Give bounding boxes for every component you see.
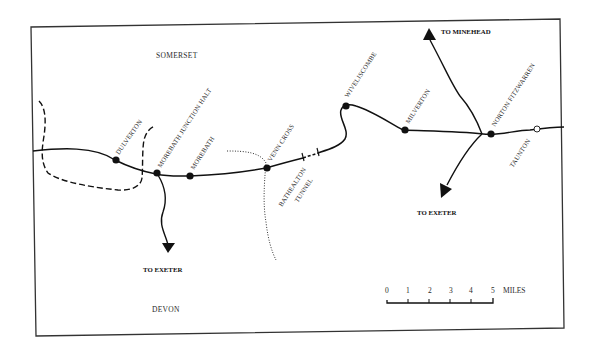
scale-tick-3: 3 [449,286,453,295]
branch-to-exeter-west [158,175,168,245]
scale-tick-4: 4 [469,286,473,295]
scale-tick-5: 5 [491,286,495,295]
destination-label-exeter-west: TO EXETER [143,266,182,273]
station-dot-morebath-junction-halt [153,169,160,176]
station-label-morebath: MOREBATH [189,135,216,171]
station-label-dulverton: DULVERTON [114,118,143,156]
arrow-down-exeter-west-icon [162,243,175,253]
station-dot-milverton [401,126,408,133]
arrow-down-exeter-east-icon [440,183,452,198]
station-label-taunton: TAUNTON [508,137,532,168]
scale-tick-1: 1 [406,286,410,295]
station-label-wiveliscombe: WIVELISCOMBE [343,50,378,98]
region-label-devon: DEVON [152,305,180,314]
destination-label-exeter-east: TO EXETER [417,209,456,216]
scale-bar: 0 1 2 3 4 5 MILES [385,286,526,303]
station-dot-wiveliscombe [342,102,349,109]
station-dot-venn-cross [263,164,270,171]
station-label-venn-cross: VENN CROSS [266,123,295,163]
station-dot-morebath [186,172,193,179]
region-label-somerset: SOMERSET [156,51,198,60]
destination-label-minehead: TO MINEHEAD [441,28,491,35]
railway-map: SOMERSET DEVON DULVERTON MOREBATH JUNCTI… [0,0,594,354]
branch-to-exeter-east [447,134,482,185]
arrow-up-minehead-icon [423,28,436,40]
scale-tick-0: 0 [385,286,389,295]
station-dot-dulverton [112,156,119,163]
station-ring-taunton [534,126,540,132]
county-boundary-dashed [39,101,155,190]
station-label-milverton: MILVERTON [404,88,431,125]
station-label-norton-fitzwarren: NORTON FITZWARREN [490,62,536,128]
station-dot-norton-fitzwarren [487,130,494,137]
branch-to-minehead [430,40,482,134]
tunnel-segment [303,153,318,158]
scale-unit-label: MILES [503,286,526,295]
scale-tick-2: 2 [428,286,432,295]
